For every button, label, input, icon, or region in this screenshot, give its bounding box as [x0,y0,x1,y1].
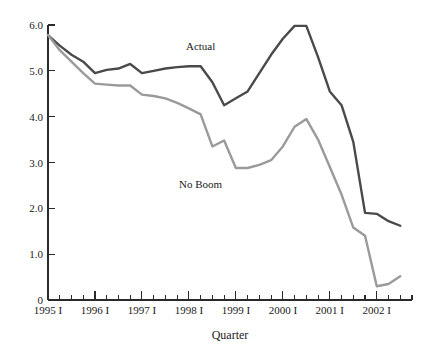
y-tick-marks [48,25,55,300]
x-tick-label: 2000 I [269,304,298,316]
x-tick-label: 1998 I [175,304,204,316]
x-tick-label: 1997 I [128,304,157,316]
data-series-group [48,26,400,286]
x-axis: 1995 I1996 I1997 I1998 I1999 I2000 I2001… [34,291,412,316]
x-tick-labels: 1995 I1996 I1997 I1998 I1999 I2000 I2001… [34,304,392,316]
y-axis: 01.02.03.04.05.06.0 [29,19,55,306]
chart-figure: 01.02.03.04.05.06.0 1995 I1996 I1997 I19… [0,0,428,349]
series-label-no-boom: No Boom [179,178,223,190]
y-tick-labels: 01.02.03.04.05.06.0 [29,19,43,306]
x-tick-label: 1996 I [81,304,110,316]
x-tick-label: 2002 I [363,304,392,316]
x-tick-label: 1999 I [222,304,251,316]
series-label-actual: Actual [186,40,215,52]
x-tick-label: 2001 I [316,304,345,316]
y-tick-label: 1.0 [29,248,43,260]
y-tick-label: 2.0 [29,202,43,214]
line-chart: 01.02.03.04.05.06.0 1995 I1996 I1997 I19… [0,0,428,349]
y-tick-label: 4.0 [29,111,43,123]
series-line-actual [48,26,400,226]
x-axis-title: Quarter [212,328,249,342]
y-tick-label: 6.0 [29,19,43,31]
x-tick-marks [48,291,412,300]
y-tick-label: 5.0 [29,65,43,77]
y-tick-label: 3.0 [29,157,43,169]
x-tick-label: 1995 I [34,304,63,316]
